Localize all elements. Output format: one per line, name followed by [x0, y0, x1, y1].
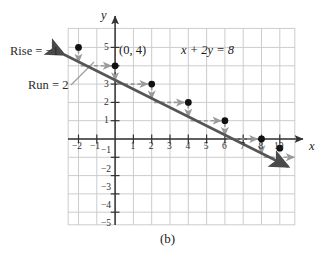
y-intercept-point-label: (0, 4): [119, 43, 146, 58]
y-tick-label: 5: [104, 42, 109, 52]
x-tick-label: 8: [259, 141, 264, 151]
x-tick-label: 10: [274, 141, 284, 151]
y-tick-label: −2: [101, 164, 111, 174]
x-tick-label: −1: [90, 141, 100, 151]
y-tick-label: −1: [101, 145, 111, 155]
x-tick-label: 3: [167, 141, 172, 151]
data-point: [112, 62, 119, 69]
x-tick-label: 6: [222, 141, 227, 151]
x-tick-label: 7: [240, 141, 245, 151]
data-point: [75, 44, 82, 51]
y-tick-label: 2: [104, 97, 109, 107]
x-tick-label: 5: [204, 141, 209, 151]
rise-label: Rise = −1: [10, 44, 59, 59]
data-point: [222, 117, 229, 124]
x-axis-label: x: [309, 139, 315, 154]
run-label: Run = 2: [28, 78, 68, 93]
y-tick-label: 1: [104, 115, 109, 125]
y-tick-label: 3: [104, 79, 109, 89]
graph-figure: −2 −1 1 2 3 4 5 6 7 8 10 5 3 2 1 −1 −2 −…: [0, 0, 330, 260]
y-axis-label: y: [101, 8, 107, 23]
data-point: [185, 99, 192, 106]
y-tick-label: −5: [101, 218, 111, 228]
equation-label: x + 2y = 8: [181, 43, 234, 58]
x-tick-label: 4: [185, 141, 190, 151]
data-point: [148, 81, 155, 88]
x-tick-label: 2: [149, 141, 154, 151]
x-tick-label: −2: [72, 141, 82, 151]
figure-caption: (b): [160, 231, 175, 247]
coordinate-plane: [0, 0, 330, 260]
x-tick-label: 1: [131, 141, 136, 151]
y-tick-label: −4: [101, 200, 111, 210]
y-tick-label: −3: [101, 182, 111, 192]
